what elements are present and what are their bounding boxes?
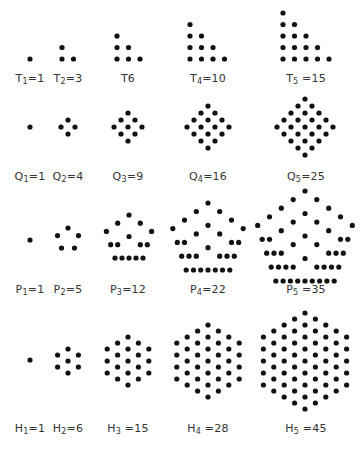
pentagonal-dot <box>283 265 288 270</box>
hexagonal-dot <box>344 382 349 387</box>
pentagonal-dot <box>138 242 143 247</box>
pentagonal-dot <box>138 221 143 226</box>
pentagonal-dot <box>108 242 113 247</box>
hexagonal-dot <box>261 382 266 387</box>
hexagonal-dot <box>115 376 120 381</box>
hexagonal-dot <box>195 352 200 357</box>
pentagonal-dot <box>333 251 338 256</box>
hexagonal-dot <box>115 340 120 345</box>
triangular-dot <box>187 22 192 27</box>
pentagonal-dot <box>314 242 319 247</box>
hexagonal-dot <box>185 370 190 375</box>
pentagonal-dot <box>241 226 246 231</box>
hexagonal-dot <box>344 358 349 363</box>
hexagonal-dot <box>261 358 266 363</box>
hexagonal-dot <box>237 364 242 369</box>
square-dot <box>212 124 217 129</box>
hexagonal-dot <box>105 370 110 375</box>
triangular-dot <box>187 45 192 50</box>
square-dot <box>139 124 144 129</box>
square-dot <box>184 124 189 129</box>
label-t3: T6 <box>121 72 135 85</box>
hexagonal-dot <box>261 334 266 339</box>
hexagonal-dot <box>271 376 276 381</box>
square-dot <box>205 131 210 136</box>
triangular-dot <box>199 33 204 38</box>
hexagonal-dot <box>302 322 307 327</box>
hexagonal-dot <box>282 382 287 387</box>
label-h1: H1=1 <box>15 422 45 436</box>
square-dot <box>274 124 279 129</box>
pentagonal-dot <box>273 278 278 283</box>
pentagonal-dot <box>170 226 175 231</box>
hexagonal-dot <box>195 376 200 381</box>
pentagonal-dot <box>27 237 32 242</box>
hexagonal-dot <box>323 394 328 399</box>
hexagonal-dot <box>302 334 307 339</box>
hexagonal-dot <box>65 370 70 375</box>
hexagonal-dot <box>195 388 200 393</box>
figurate-number-diagram <box>0 0 361 452</box>
square-dot <box>295 117 300 122</box>
hexagonal-dot <box>76 364 81 369</box>
triangular-dot <box>280 45 285 50</box>
hexagonal-dot <box>323 334 328 339</box>
hexagonal-dot <box>55 352 60 357</box>
pentagonal-dot <box>217 254 222 259</box>
square-dot <box>205 103 210 108</box>
hexagonal-dot <box>174 364 179 369</box>
hexagonal-dot <box>292 340 297 345</box>
pentagonal-dot <box>341 251 346 256</box>
pentagonal-dot <box>145 242 150 247</box>
square-dot <box>309 131 314 136</box>
triangular-dot <box>280 33 285 38</box>
pentagonal-dot <box>115 242 120 247</box>
label-h3: H3 =15 <box>107 422 148 436</box>
square-dot <box>281 117 286 122</box>
hexagonal-dot <box>313 364 318 369</box>
hexagonal-dot <box>271 364 276 369</box>
hexagonal-dot <box>205 334 210 339</box>
hexagonal-dot <box>292 316 297 321</box>
triangular-dot <box>303 56 308 61</box>
square-dot <box>72 124 77 129</box>
pentagonal-dot <box>184 267 189 272</box>
hexagonal-dot <box>205 394 210 399</box>
triangular-dot <box>114 56 119 61</box>
square-dot <box>212 110 217 115</box>
square-dot <box>198 124 203 129</box>
hexagonal-dot <box>344 346 349 351</box>
dot-patterns <box>27 10 355 411</box>
hexagonal-dot <box>271 328 276 333</box>
hexagonal-dot <box>334 328 339 333</box>
pentagonal-dot <box>267 237 272 242</box>
pentagonal-dot <box>345 237 350 242</box>
hexagonal-dot <box>313 388 318 393</box>
square-dot <box>205 145 210 150</box>
hexagonal-dot <box>185 382 190 387</box>
hexagonal-dot <box>226 382 231 387</box>
pentagonal-dot <box>175 240 180 245</box>
label-q5: Q5=25 <box>287 170 325 184</box>
triangular-dot <box>292 33 297 38</box>
hexagonal-dot <box>195 364 200 369</box>
pentagonal-dot <box>236 240 241 245</box>
hexagonal-dot <box>125 370 130 375</box>
pentagonal-dot <box>291 265 296 270</box>
hexagonal-dot <box>313 352 318 357</box>
pentagonal-dot <box>119 255 124 260</box>
hexagonal-dot <box>292 388 297 393</box>
label-t1: T1=1 <box>16 72 45 86</box>
triangular-dot <box>187 33 192 38</box>
label-p5: P5 =35 <box>286 283 326 297</box>
triangular-dot <box>280 56 285 61</box>
hexagonal-dot <box>105 358 110 363</box>
pentagonal-dot <box>291 220 296 225</box>
square-dot <box>281 131 286 136</box>
square-dot <box>219 117 224 122</box>
hexagonal-dot <box>226 370 231 375</box>
pentagonal-dot <box>326 228 331 233</box>
square-dot <box>125 124 130 129</box>
pentagonal-dot <box>179 254 184 259</box>
hexagonal-dot <box>282 334 287 339</box>
